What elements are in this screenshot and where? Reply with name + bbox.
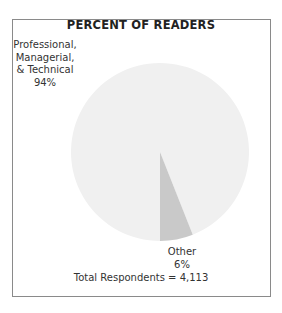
label-value: 94%	[1, 77, 89, 90]
label-professional: Professional, Managerial, & Technical 94…	[1, 39, 89, 89]
label-other: Other 6%	[162, 246, 202, 271]
label-line: Professional,	[1, 39, 89, 52]
label-line: Managerial,	[1, 52, 89, 65]
total-respondents: Total Respondents = 4,113	[0, 272, 282, 283]
label-value: 6%	[162, 259, 202, 272]
pie-slice-professional	[71, 63, 249, 241]
label-line: Other	[162, 246, 202, 259]
label-line: & Technical	[1, 64, 89, 77]
